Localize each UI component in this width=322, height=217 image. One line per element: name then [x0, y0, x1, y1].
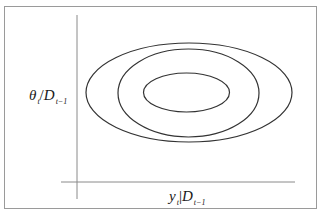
middle-contour-ellipse [118, 49, 259, 137]
y-label-d: D [44, 87, 55, 103]
x-label-y: y [169, 188, 176, 204]
x-label-d: D [182, 188, 193, 204]
x-axis-label: yt|Dt−1 [169, 189, 205, 207]
x-label-d-sub: t−1 [194, 198, 206, 207]
y-label-d-sub: t−1 [56, 97, 68, 106]
outer-contour-ellipse [86, 43, 292, 142]
contour-diagram [0, 0, 322, 217]
y-label-theta: θ [29, 87, 36, 103]
y-axis-label: θt/Dt−1 [29, 88, 67, 106]
inner-contour-ellipse [144, 73, 230, 112]
